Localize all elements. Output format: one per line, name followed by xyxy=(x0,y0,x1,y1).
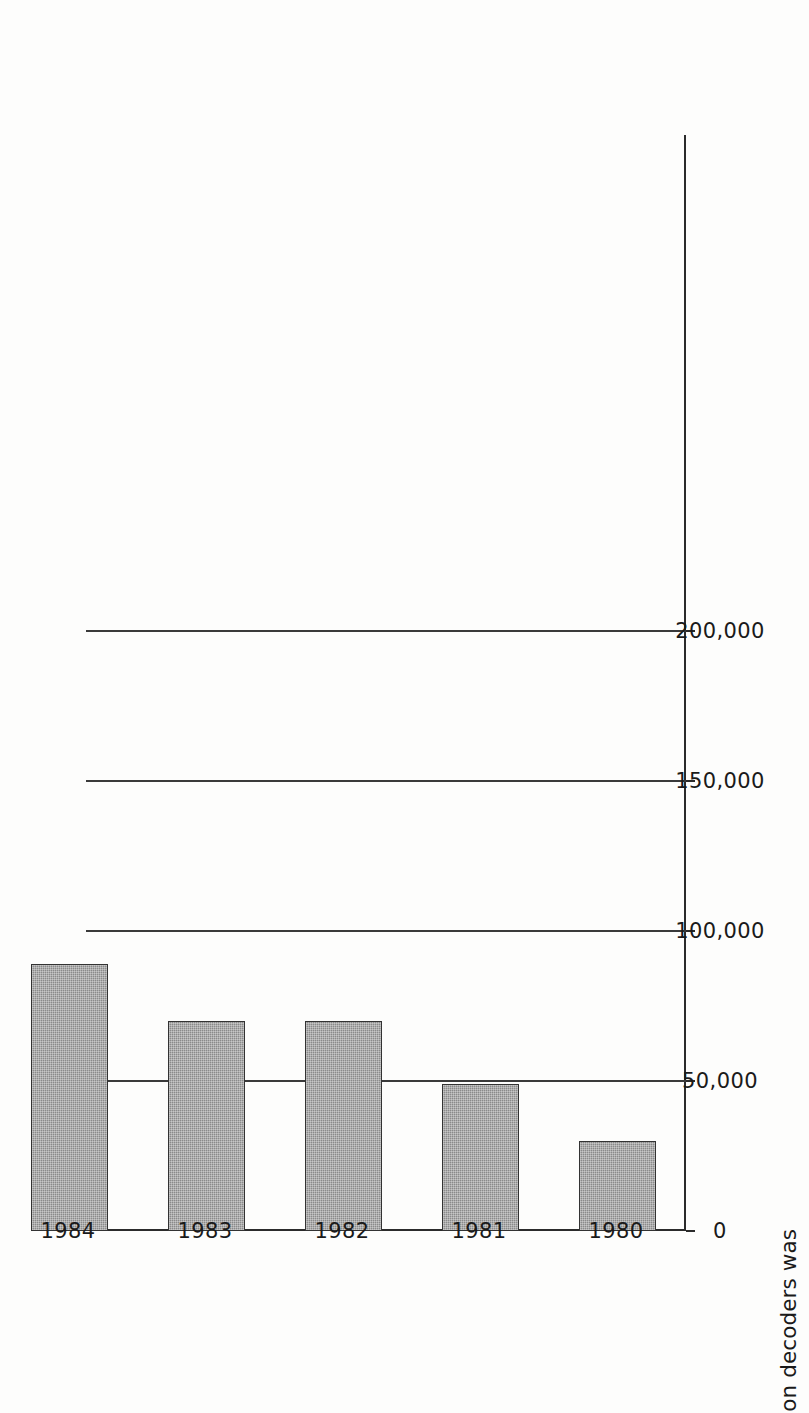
value-tick-label: 0 xyxy=(660,1219,780,1243)
gridline-200000 xyxy=(86,630,686,631)
gridline-100000 xyxy=(86,930,686,931)
value-tick-label: 150,000 xyxy=(660,769,780,793)
value-tick-label: 200,000 xyxy=(660,619,780,643)
bar-1980 xyxy=(579,1141,656,1231)
bar-1983 xyxy=(168,1021,245,1231)
figure-caption-text: Cumulative decoder sales (estimated), 19… xyxy=(776,1229,801,1413)
plot-area: 050,000100,000150,000200,000198019811982… xyxy=(86,135,686,1231)
chart-stage: 050,000100,000150,000200,000198019811982… xyxy=(60,87,750,1327)
category-label-1984: 1984 xyxy=(7,1219,127,1243)
figure-caption: Fig. 5.2. Cumulative decoder sales (esti… xyxy=(774,1399,803,1413)
bar-1982 xyxy=(305,1021,382,1231)
gridline-150000 xyxy=(86,780,686,781)
bar-1981 xyxy=(442,1084,519,1231)
figure-page: 050,000100,000150,000200,000198019811982… xyxy=(0,0,809,1413)
value-tick-label: 50,000 xyxy=(660,1069,780,1093)
category-label-1983: 1983 xyxy=(144,1219,264,1243)
bar-1984 xyxy=(31,964,108,1231)
category-label-1982: 1982 xyxy=(281,1219,401,1243)
category-label-1980: 1980 xyxy=(555,1219,675,1243)
category-label-1981: 1981 xyxy=(418,1219,538,1243)
value-tick-label: 100,000 xyxy=(660,919,780,943)
category-axis-line xyxy=(684,135,686,1231)
